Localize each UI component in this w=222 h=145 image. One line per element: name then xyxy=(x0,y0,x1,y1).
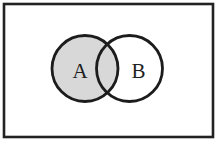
set-a-label: A xyxy=(72,59,88,83)
venn-diagram: A B xyxy=(0,0,222,145)
set-b-label: B xyxy=(131,59,145,83)
